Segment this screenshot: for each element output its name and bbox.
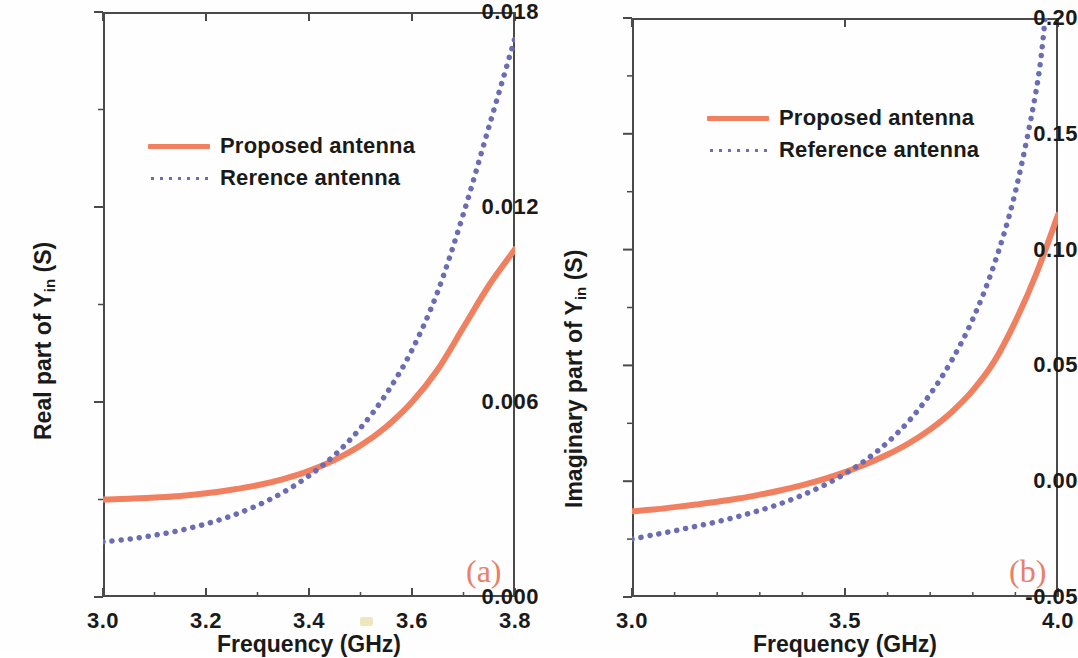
ytick-label-a-2: 0.006 (443, 389, 539, 415)
ytick-label-b-2: 0.10 (992, 237, 1078, 263)
legend-line-dotted-icon-a (148, 169, 210, 187)
ytick-label-b-3: 0.05 (992, 352, 1078, 378)
legend-item-reference-b: Reference antenna (707, 136, 979, 164)
ytick-label-b-1: 0.15 (992, 121, 1078, 147)
legend-label-proposed-a: Proposed antenna (220, 133, 415, 159)
x-axis-title-a: Frequency (GHz) (217, 631, 401, 658)
panel-caption-b: (b) (1009, 553, 1046, 590)
xtick-label-a-0: 3.0 (87, 608, 119, 634)
xtick-label-b-0: 3.0 (616, 608, 648, 634)
y-axis-title-a-sub: in (41, 279, 58, 292)
legend-label-proposed-b: Proposed antenna (779, 105, 974, 131)
y-axis-title-a-unit: (S) (30, 242, 56, 279)
legend-line-solid-icon-b (707, 109, 769, 127)
legend-a: Proposed antenna Rerence antenna (148, 132, 415, 192)
legend-label-reference-b: Reference antenna (779, 137, 979, 163)
scan-artifact (360, 617, 373, 626)
y-axis-title-a: Real part of Yin (S) (30, 242, 58, 440)
legend-b: Proposed antenna Reference antenna (707, 104, 979, 164)
legend-line-dotted-icon-b (707, 141, 769, 159)
chart-panel-b: 0.20 0.15 0.10 0.05 0.00 -0.05 3.0 3.5 4… (539, 0, 1078, 651)
legend-item-reference-a: Rerence antenna (148, 164, 415, 192)
y-axis-title-a-main: Real part of Y (30, 292, 56, 440)
y-axis-title-b-unit: (S) (561, 250, 587, 287)
chart-panel-a: 0.018 0.012 0.006 0.000 3.0 3.2 3.4 3.6 … (0, 0, 539, 651)
ytick-label-a-0: 0.018 (443, 0, 539, 25)
y-axis-title-b-main: Imaginary part of Y (561, 300, 587, 508)
ytick-label-b-4: 0.00 (992, 468, 1078, 494)
y-axis-title-b-sub: in (572, 287, 589, 300)
plot-frame-a (103, 12, 515, 597)
panel-caption-a: (a) (466, 553, 502, 590)
ytick-label-a-1: 0.012 (443, 194, 539, 220)
legend-label-reference-a: Rerence antenna (220, 165, 400, 191)
legend-line-solid-icon-a (148, 137, 210, 155)
legend-item-proposed-b: Proposed antenna (707, 104, 979, 132)
x-axis-title-b: Frequency (GHz) (753, 631, 937, 658)
xtick-label-a-4: 3.8 (499, 608, 531, 634)
legend-item-proposed-a: Proposed antenna (148, 132, 415, 160)
ytick-label-b-0: 0.20 (992, 5, 1078, 31)
y-axis-title-b: Imaginary part of Yin (S) (561, 250, 589, 508)
xtick-label-b-2: 4.0 (1042, 608, 1074, 634)
